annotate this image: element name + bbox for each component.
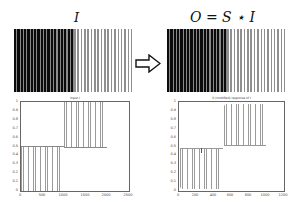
light-stripes xyxy=(227,29,287,92)
high-square-wave xyxy=(64,102,107,148)
dark-stripes xyxy=(167,29,227,92)
input-label: I xyxy=(74,11,79,25)
marker-tick xyxy=(201,148,202,153)
input-stripe-image xyxy=(14,29,134,92)
high-response-wave xyxy=(224,104,266,146)
output-equation-label: O = S ⋆ I xyxy=(190,10,255,24)
low-response-wave xyxy=(180,148,223,189)
output-stripe-image xyxy=(167,29,287,92)
output-response-plot: S (modified) response of I xyxy=(178,101,285,192)
plot-title: S (modified) response of I xyxy=(179,96,284,100)
light-stripes xyxy=(74,29,134,92)
plot-title: Input I xyxy=(21,96,129,100)
right-arrow-icon xyxy=(135,54,161,73)
dark-stripes xyxy=(14,29,74,92)
low-square-wave xyxy=(21,146,64,191)
input-signal-plot: Input I xyxy=(20,101,130,192)
